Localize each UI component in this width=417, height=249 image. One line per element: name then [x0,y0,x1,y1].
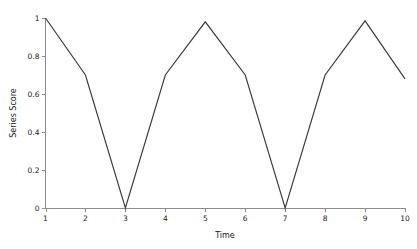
y-tick-label: 0.4 [28,128,40,137]
y-tick-label: 0.6 [28,90,40,99]
x-tick-label: 4 [163,214,168,223]
x-tick-label: 2 [83,214,88,223]
x-tick-label: 10 [400,214,410,223]
y-tick-label: 0.8 [28,52,40,61]
x-tick-label: 6 [243,214,248,223]
x-tick-label: 7 [283,214,288,223]
x-tick-label: 1 [43,214,48,223]
x-tick-label: 3 [123,214,128,223]
line-chart: 00.20.40.60.81 Series Score 12345678910 … [0,0,417,249]
y-tick-label: 1 [35,14,40,23]
x-tick-label: 5 [203,214,208,223]
y-axis-title: Series Score [9,88,18,138]
x-tick-label: 8 [323,214,328,223]
y-tick-label: 0.2 [28,166,40,175]
chart-canvas: 00.20.40.60.81 Series Score 12345678910 … [0,0,417,249]
x-tick-label: 9 [363,214,368,223]
x-axis-title: Time [214,231,235,240]
chart-background [0,0,417,249]
y-tick-label: 0 [35,204,40,213]
